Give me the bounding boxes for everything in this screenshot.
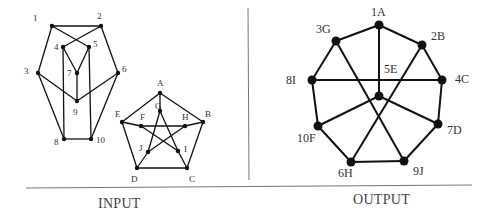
input-graph-numbered: 12345678910 — [24, 11, 127, 147]
node-label-8: 8 — [54, 137, 59, 147]
edge-1A-2B — [379, 25, 422, 45]
node-label-10: 10 — [96, 135, 106, 145]
node-6 — [116, 71, 120, 75]
node-8I — [308, 76, 317, 85]
node-label-9: 9 — [73, 107, 78, 117]
node-label-E: E — [115, 109, 121, 119]
edge-B-C — [187, 122, 203, 168]
node-E — [120, 120, 124, 124]
node-9J — [400, 157, 409, 166]
node-label-D: D — [131, 174, 138, 184]
node-8 — [62, 137, 66, 141]
node-label-C: C — [189, 174, 195, 184]
graph-isomorphism-figure: 12345678910 ABCDEFGHIJ 1A2B3G4C5E6H7D8I9… — [0, 0, 491, 218]
node-label-6: 6 — [122, 64, 127, 74]
node-2B — [418, 41, 427, 50]
node-label-A: A — [157, 78, 164, 88]
edge-B-H — [185, 122, 203, 126]
node-7 — [75, 71, 79, 75]
node-label-5: 5 — [93, 39, 98, 49]
edge-3G-8I — [312, 41, 336, 80]
node-label-7: 7 — [67, 68, 72, 78]
output-section-label: OUTPUT — [353, 192, 410, 207]
node-label-8I: 8I — [286, 73, 296, 87]
node-4C — [438, 76, 447, 85]
edge-2-6 — [101, 26, 118, 73]
node-label-4: 4 — [54, 42, 59, 52]
input-graph-lettered: ABCDEFGHIJ — [115, 78, 211, 184]
edge-5E-7D — [379, 96, 438, 124]
node-10F — [314, 122, 323, 131]
node-2 — [99, 24, 103, 28]
node-label-H: H — [182, 112, 189, 122]
node-label-B: B — [205, 109, 211, 119]
edge-D-J — [137, 152, 148, 168]
node-label-G: G — [155, 101, 162, 111]
node-7D — [434, 120, 443, 129]
edge-8I-10F — [312, 80, 318, 126]
node-5 — [87, 45, 91, 49]
node-label-10F: 10F — [297, 131, 316, 145]
node-label-6H: 6H — [338, 166, 353, 180]
node-B — [201, 120, 205, 124]
edge-5E-10F — [318, 96, 379, 126]
input-section-label: INPUT — [98, 196, 141, 211]
edge-H-J — [148, 126, 185, 152]
node-label-7D: 7D — [447, 123, 462, 137]
edge-4C-7D — [438, 80, 442, 124]
edge-D-E — [122, 122, 137, 168]
edge-1A-3G — [336, 25, 379, 41]
node-1A — [375, 21, 384, 30]
node-H — [183, 124, 187, 128]
node-label-J: J — [139, 143, 143, 153]
edge-2B-4C — [422, 45, 442, 80]
node-label-2: 2 — [97, 11, 102, 21]
node-10 — [89, 137, 93, 141]
node-label-F: F — [140, 112, 145, 122]
node-A — [158, 91, 162, 95]
edge-7D-9J — [404, 124, 438, 161]
node-4 — [61, 45, 65, 49]
node-label-1A: 1A — [371, 5, 386, 19]
node-I — [176, 149, 180, 153]
edge-5-7 — [77, 47, 89, 73]
horizontal-divider — [26, 185, 472, 188]
node-9 — [75, 99, 79, 103]
node-1 — [50, 24, 54, 28]
node-label-1: 1 — [33, 13, 38, 23]
node-3G — [332, 37, 341, 46]
node-D — [135, 166, 139, 170]
node-5E — [375, 92, 384, 101]
node-label-3: 3 — [24, 66, 29, 76]
node-label-4C: 4C — [455, 72, 469, 86]
node-F — [139, 124, 143, 128]
edge-10F-6H — [318, 126, 351, 162]
node-J — [146, 150, 150, 154]
vertical-divider — [248, 8, 249, 180]
node-label-I: I — [184, 144, 187, 154]
edge-E-F — [122, 122, 141, 126]
edge-4-8 — [63, 47, 64, 139]
node-label-3G: 3G — [316, 22, 331, 36]
output-graph: 1A2B3G4C5E6H7D8I9J10F — [286, 5, 469, 180]
node-label-5E: 5E — [384, 62, 397, 76]
edge-6H-9J — [351, 161, 404, 162]
node-C — [185, 166, 189, 170]
edge-1-3 — [38, 26, 52, 73]
node-label-2B: 2B — [431, 29, 445, 43]
node-3 — [36, 71, 40, 75]
node-label-9J: 9J — [413, 164, 424, 178]
